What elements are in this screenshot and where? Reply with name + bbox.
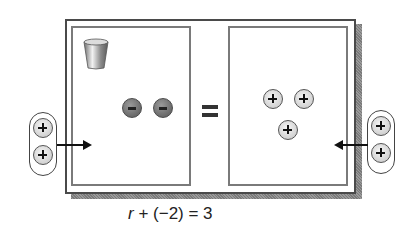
positive-counter xyxy=(294,89,314,109)
arrowhead-left-icon xyxy=(334,140,343,150)
added-counters-right xyxy=(367,110,395,174)
positive-counter xyxy=(278,120,298,140)
equals-sign xyxy=(202,103,218,119)
cup-icon xyxy=(83,38,109,70)
negative-counter xyxy=(153,98,173,118)
positive-counter xyxy=(33,118,53,138)
positive-counter xyxy=(263,89,283,109)
equation-rest: + (−2) = 3 xyxy=(134,204,213,223)
arrow-left xyxy=(343,144,368,146)
arrowhead-right-icon xyxy=(83,140,92,150)
left-side-panel xyxy=(71,26,191,186)
arrow-right xyxy=(57,144,84,146)
positive-counter xyxy=(371,116,391,136)
added-counters-left xyxy=(29,112,57,176)
equation-mat xyxy=(65,19,356,194)
right-side-panel xyxy=(228,26,348,186)
equation-label: r + (−2) = 3 xyxy=(128,204,213,224)
positive-counter xyxy=(371,143,391,163)
positive-counter xyxy=(33,145,53,165)
negative-counter xyxy=(122,98,142,118)
